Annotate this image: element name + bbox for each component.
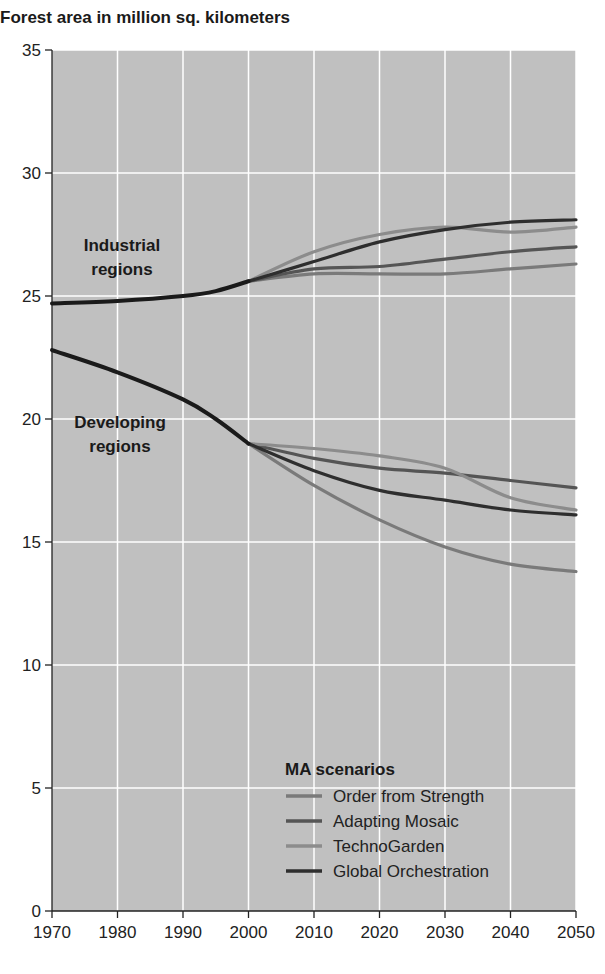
- legend-title: MA scenarios: [285, 760, 395, 779]
- x-tick-label: 2030: [426, 923, 464, 942]
- legend-item-label: TechnoGarden: [333, 837, 445, 856]
- x-tick-label: 2010: [295, 923, 333, 942]
- developing-regions-label: Developing: [74, 413, 166, 432]
- y-tick-label: 10: [22, 656, 41, 675]
- legend-item-label: Order from Strength: [333, 787, 484, 806]
- x-tick-label: 2020: [361, 923, 399, 942]
- x-tick-label: 2050: [557, 923, 595, 942]
- developing-regions-label-2: regions: [89, 437, 150, 456]
- x-tick-label: 1980: [99, 923, 137, 942]
- x-tick-label: 2040: [492, 923, 530, 942]
- y-tick-label: 25: [22, 287, 41, 306]
- y-tick-label: 35: [22, 41, 41, 60]
- y-tick-label: 15: [22, 533, 41, 552]
- x-tick-label: 1970: [33, 923, 71, 942]
- legend-item-label: Adapting Mosaic: [333, 812, 459, 831]
- industrial-regions-label-2: regions: [91, 260, 152, 279]
- industrial-regions-label: Industrial: [84, 236, 161, 255]
- y-tick-label: 0: [32, 902, 41, 921]
- y-tick-label: 20: [22, 410, 41, 429]
- x-tick-label: 1990: [164, 923, 202, 942]
- x-tick-label: 2000: [230, 923, 268, 942]
- forest-area-chart: 0510152025303519701980199020002010202020…: [0, 0, 605, 974]
- y-tick-label: 30: [22, 164, 41, 183]
- y-tick-label: 5: [32, 779, 41, 798]
- legend-item-label: Global Orchestration: [333, 862, 489, 881]
